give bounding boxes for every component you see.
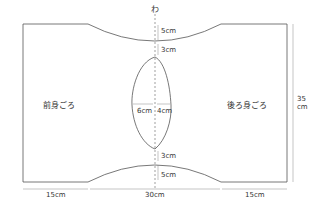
dim-top-neck: 5cm [161, 28, 176, 35]
dim-height-unit: cm [297, 104, 308, 111]
dim-hole-right: 4cm [157, 108, 172, 115]
dim-height-num: 35 [297, 96, 306, 103]
dim-center-width: 30cm [145, 192, 165, 199]
dim-top-gap: 3cm [161, 47, 176, 54]
pattern-diagram: わ 5cm 3cm 3cm 5cm 6cm 4cm 前身ごろ 後ろ身ごろ 15c… [0, 0, 323, 213]
dim-hole-left: 6cm [137, 108, 152, 115]
front-body-label: 前身ごろ [43, 102, 75, 110]
dim-bottom-neck: 5cm [161, 172, 176, 179]
dim-right-width: 15cm [245, 192, 265, 199]
back-body-label: 後ろ身ごろ [227, 102, 267, 110]
dim-left-width: 15cm [46, 192, 66, 199]
dim-bottom-gap: 3cm [161, 153, 176, 160]
fold-mark: わ [151, 6, 159, 14]
